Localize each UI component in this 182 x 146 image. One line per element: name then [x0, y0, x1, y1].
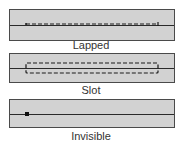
lapped-zipper-panel: [9, 9, 175, 41]
lapped-stitch-icon: [10, 10, 176, 42]
invisible-zipper-pull-icon: [10, 100, 176, 129]
slot-stitch-icon: [10, 54, 176, 84]
invisible-label: Invisible: [0, 130, 182, 142]
slot-zipper-panel: [9, 53, 175, 83]
slot-label: Slot: [0, 84, 182, 96]
invisible-zipper-panel: [9, 99, 175, 128]
lapped-label: Lapped: [0, 39, 182, 51]
